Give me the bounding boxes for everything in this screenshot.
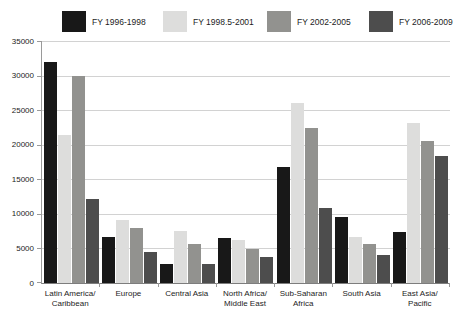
bar [421, 141, 434, 283]
x-axis-tick [216, 283, 217, 287]
bar [102, 237, 115, 283]
x-axis-tick [449, 283, 450, 287]
plot-area [41, 41, 450, 284]
x-axis-labels: Latin America/ CaribbeanEuropeCentral As… [41, 289, 449, 310]
bar [363, 244, 376, 283]
x-axis-category-label: South Asia [332, 289, 390, 310]
x-axis-tick [99, 283, 100, 287]
x-axis-tick [391, 283, 392, 287]
bar [260, 257, 273, 283]
bar-group [333, 41, 391, 283]
bar-group [217, 41, 275, 283]
bar [188, 244, 201, 283]
x-axis-category-label: Europe [99, 289, 157, 310]
y-axis-tick-label: 35000 [12, 37, 34, 46]
bar [160, 264, 173, 283]
bar [335, 217, 348, 283]
legend-label: FY 2002-2005 [297, 17, 351, 27]
bar [202, 264, 215, 283]
bar [232, 240, 245, 283]
y-axis-tick-label: 5000 [16, 244, 34, 253]
y-axis-tick-label: 15000 [12, 175, 34, 184]
y-axis-tick-label: 10000 [12, 209, 34, 218]
legend-item: FY 1998.5-2001 [163, 11, 254, 32]
legend-swatch [62, 11, 86, 32]
bar [319, 208, 332, 283]
x-axis-category-label: North Africa/ Middle East [216, 289, 274, 310]
bar [174, 231, 187, 283]
bar [305, 128, 318, 283]
bar-group [42, 41, 100, 283]
bar [277, 167, 290, 283]
bar [393, 232, 406, 283]
bar [246, 249, 259, 283]
x-axis-tick [158, 283, 159, 287]
bar [86, 199, 99, 283]
bar [116, 220, 129, 283]
bar-group [275, 41, 333, 283]
x-axis-category-label: East Asia/ Pacific [391, 289, 449, 310]
bar [407, 123, 420, 283]
bar-group [392, 41, 450, 283]
bar [72, 76, 85, 283]
legend-swatch [369, 11, 393, 32]
legend-item: FY 2002-2005 [267, 11, 351, 32]
bar [435, 156, 448, 283]
x-axis-tick [332, 283, 333, 287]
y-axis-tick-label: 30000 [12, 71, 34, 80]
bar [349, 237, 362, 283]
legend-swatch [267, 11, 291, 32]
y-axis-tick-label: 25000 [12, 106, 34, 115]
legend-swatch [163, 11, 187, 32]
legend-label: FY 1996-1998 [92, 17, 146, 27]
legend-label: FY 2006-2009 [399, 17, 453, 27]
legend-item: FY 1996-1998 [62, 11, 146, 32]
chart-legend: FY 1996-1998FY 1998.5-2001FY 2002-2005FY… [0, 11, 461, 33]
y-axis-tick-label: 20000 [12, 140, 34, 149]
bar [130, 228, 143, 283]
x-axis-category-label: Central Asia [158, 289, 216, 310]
bar [291, 103, 304, 283]
x-axis-category-label: Sub-Saharan Africa [274, 289, 332, 310]
bar [377, 255, 390, 283]
bar [58, 135, 71, 283]
x-axis-tick [274, 283, 275, 287]
bar-group [100, 41, 158, 283]
bar-group [159, 41, 217, 283]
y-axis-tick-label: 0 [30, 279, 34, 288]
bar [144, 252, 157, 283]
legend-item: FY 2006-2009 [369, 11, 453, 32]
x-axis-category-label: Latin America/ Caribbean [41, 289, 99, 310]
y-axis: 05000100001500020000250003000035000 [0, 41, 37, 283]
bar [218, 238, 231, 283]
bar-chart: FY 1996-1998FY 1998.5-2001FY 2002-2005FY… [0, 0, 461, 315]
bar [44, 62, 57, 283]
legend-label: FY 1998.5-2001 [193, 17, 254, 27]
